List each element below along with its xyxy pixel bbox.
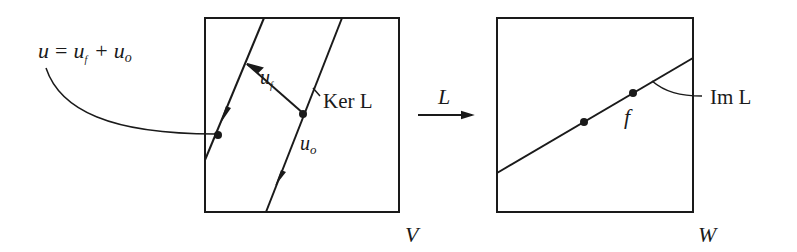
kernel-arrow-icon [275, 170, 286, 186]
u-o-label: uo [300, 132, 317, 157]
point-f-label: f [624, 104, 633, 129]
image-label: Im L [710, 85, 751, 109]
u-f-label: uf [260, 66, 274, 91]
map-arrow: L [418, 84, 472, 115]
space-v-label: V [405, 222, 421, 247]
coset-line [205, 18, 264, 160]
equation-text: u=uf+uo [38, 38, 132, 65]
decomposition-equation: u=uf+uo [38, 38, 215, 134]
kernel-label: Ker L [323, 89, 373, 113]
space-w-label: W [698, 222, 718, 247]
point-f [629, 89, 637, 97]
coset-arrow-icon [220, 106, 231, 124]
u-f-vector [247, 64, 304, 114]
point-u-o [299, 110, 307, 118]
space-w: f Im L W [497, 18, 751, 247]
space-v: uf Ker L uo V [205, 18, 421, 247]
image-label-leader [652, 81, 702, 96]
map-label: L [437, 84, 450, 109]
image-line [497, 58, 693, 173]
equation-leader-curve [46, 68, 215, 134]
diagram-canvas: uf Ker L uo V u=uf+uo L f Im L W [0, 0, 797, 252]
point-u [214, 131, 222, 139]
point-image [580, 118, 588, 126]
